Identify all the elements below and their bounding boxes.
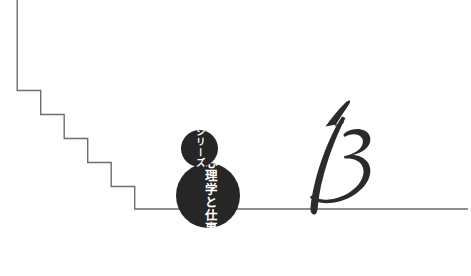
series-badge: シリーズ xyxy=(181,130,218,167)
staircase-line-art xyxy=(0,0,471,276)
numeral-one-flag xyxy=(326,100,351,127)
title-badge: 心理学と仕事 xyxy=(176,163,240,228)
book-cover: 心理学と仕事 シリーズ 13 xyxy=(0,0,471,276)
series-badge-label: シリーズ xyxy=(196,127,206,168)
staircase-path xyxy=(17,0,468,209)
issue-number-13: 13 xyxy=(300,96,380,220)
